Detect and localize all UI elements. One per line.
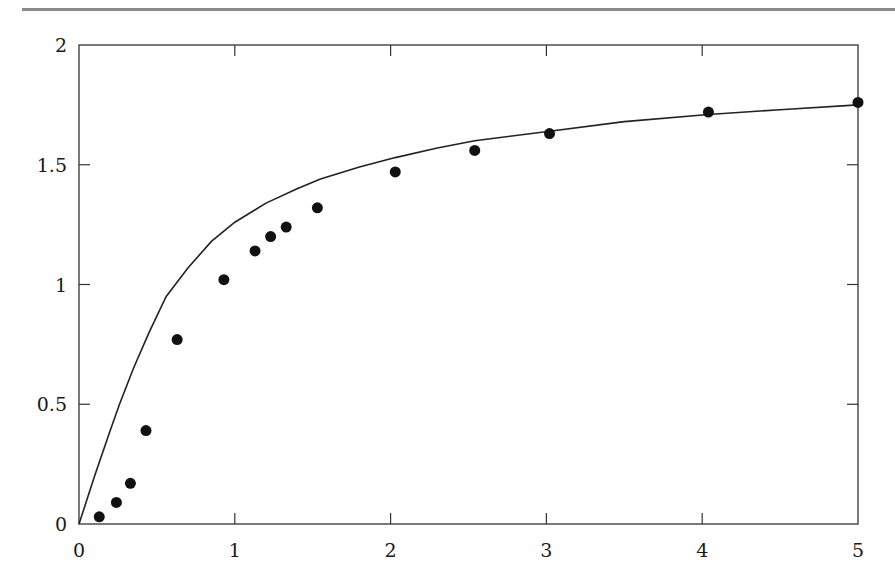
data-point — [140, 425, 151, 436]
y-tick-label: 2 — [55, 34, 67, 56]
fitted-curve — [79, 105, 858, 524]
data-point — [469, 145, 480, 156]
x-tick-labels: 012345 — [73, 539, 864, 561]
x-tick-label: 5 — [852, 539, 864, 561]
data-point — [544, 128, 555, 139]
y-tick-labels: 00.511.52 — [37, 34, 67, 535]
data-point — [703, 107, 714, 118]
y-tick-label: 0 — [55, 513, 67, 535]
data-point — [125, 478, 136, 489]
data-point — [94, 511, 105, 522]
x-tick-label: 0 — [73, 539, 85, 561]
data-point — [250, 245, 261, 256]
y-tick-label: 1 — [55, 274, 67, 296]
plot-frame — [79, 45, 858, 524]
data-point — [111, 497, 122, 508]
data-point — [312, 202, 323, 213]
axis-ticks — [79, 45, 858, 524]
data-point — [172, 334, 183, 345]
data-point — [281, 222, 292, 233]
y-tick-label: 1.5 — [37, 154, 67, 176]
x-tick-label: 1 — [229, 539, 241, 561]
x-tick-label: 4 — [696, 539, 708, 561]
data-point — [853, 97, 864, 108]
data-points — [94, 97, 864, 522]
data-point — [265, 231, 276, 242]
y-tick-label: 0.5 — [37, 393, 67, 415]
x-tick-label: 3 — [540, 539, 552, 561]
x-tick-label: 2 — [385, 539, 397, 561]
data-point — [218, 274, 229, 285]
data-point — [390, 166, 401, 177]
chart: 012345 00.511.52 — [0, 0, 895, 588]
